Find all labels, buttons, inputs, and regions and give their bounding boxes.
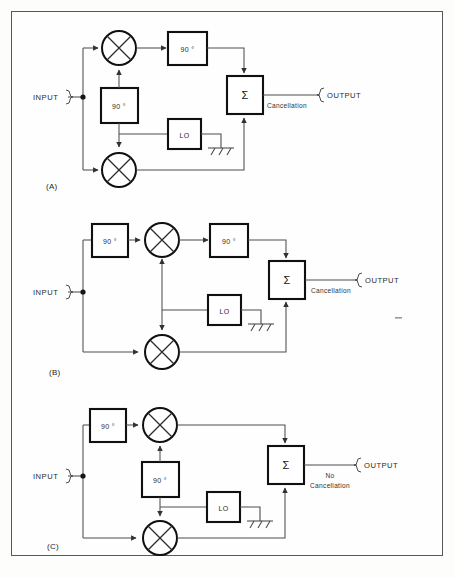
upper-mixer-b — [145, 223, 179, 257]
diagram-canvas: INPUT 90 ° LO — [0, 0, 455, 578]
panel-b: INPUT 90 ° — [33, 223, 402, 377]
lower-mixer-b — [145, 335, 179, 369]
figure-page: INPUT 90 ° LO — [0, 0, 455, 578]
summer-c: Σ — [268, 446, 304, 484]
panel-c-output-net: OUTPUT No Cancellation — [304, 458, 398, 489]
local-oscillator-c: LO — [207, 492, 240, 522]
panel-b-output-net: OUTPUT Cancellation — [305, 273, 399, 294]
lower-mixer-a — [102, 153, 136, 187]
phase-shift-lo-c: 90 ° — [142, 462, 179, 497]
output-label-c: OUTPUT — [364, 461, 398, 470]
phase-shift-lo-a: 90 ° — [101, 88, 138, 123]
phase-shift-rf-input-c: 90 ° — [90, 409, 126, 442]
no-cancellation-line2-c: Cancellation — [310, 482, 350, 489]
input-junction-dot-a — [80, 94, 85, 99]
local-oscillator-a-text: LO — [179, 132, 189, 139]
phase-shift-rf-output-a: 90 ° — [168, 32, 207, 65]
ground-symbol-a — [201, 134, 234, 155]
phase-shift-rf-output-b: 90 ° — [210, 224, 248, 257]
input-label-a: INPUT — [33, 93, 58, 102]
ground-symbol-b — [241, 310, 274, 331]
input-label-b: INPUT — [33, 288, 58, 297]
ground-symbol-c — [240, 507, 273, 528]
summer-a: Σ — [227, 76, 263, 114]
phase-shift-lo-c-text: 90 ° — [153, 477, 167, 484]
upper-mixer-c — [143, 408, 177, 442]
cancellation-label-b: Cancellation — [311, 287, 351, 294]
local-oscillator-b-text: LO — [219, 308, 229, 315]
local-oscillator-a: LO — [168, 119, 201, 149]
stray-mark — [395, 317, 402, 319]
summer-c-symbol: Σ — [283, 459, 290, 471]
local-oscillator-c-text: LO — [218, 505, 228, 512]
lower-mixer-c — [143, 521, 177, 555]
summer-b: Σ — [269, 261, 305, 299]
output-label-b: OUTPUT — [365, 276, 399, 285]
panel-id-c: (C) — [47, 542, 59, 551]
summer-b-symbol: Σ — [284, 274, 291, 286]
input-label-c: INPUT — [33, 472, 58, 481]
input-junction-dot-c — [80, 473, 85, 478]
panel-id-a: (A) — [46, 182, 58, 191]
upper-to-summer-a — [207, 48, 244, 73]
panel-a-input-net: INPUT — [33, 48, 98, 170]
phase-shift-rf-input-b: 90 ° — [92, 224, 128, 257]
upper-mixer-a — [102, 31, 136, 65]
panel-id-b: (B) — [49, 368, 61, 377]
panel-a: INPUT 90 ° LO — [33, 31, 361, 191]
output-label-a: OUTPUT — [327, 91, 361, 100]
local-oscillator-b: LO — [208, 295, 241, 325]
no-cancellation-line1-c: No — [325, 472, 334, 479]
phase-shift-rf-input-c-text: 90 ° — [101, 423, 115, 430]
input-junction-dot-b — [80, 289, 85, 294]
phase-shift-lo-a-text: 90 ° — [112, 103, 126, 110]
cancellation-label-a: Cancellation — [267, 102, 307, 109]
phase-shift-rf-input-b-text: 90 ° — [103, 238, 117, 245]
phase-shift-rf-output-a-text: 90 ° — [180, 46, 194, 53]
upper-to-summer-c — [177, 425, 285, 443]
panel-c: INPUT 90 ° 90 ° — [33, 408, 398, 555]
phase-shift-rf-output-b-text: 90 ° — [222, 238, 236, 245]
summer-a-symbol: Σ — [242, 89, 249, 101]
upper-to-summer-b — [248, 240, 286, 258]
panel-a-output-net: OUTPUT Cancellation — [263, 88, 361, 109]
